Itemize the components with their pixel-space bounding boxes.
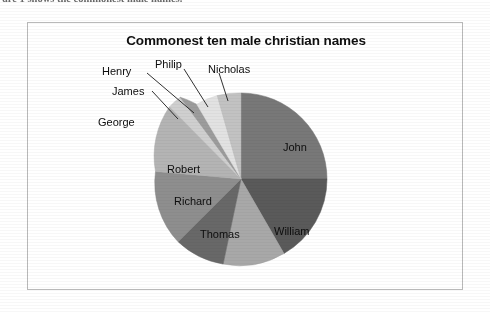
pie-chart: John William Thomas Richard Robert Georg… [28,23,464,291]
pie-label-robert: Robert [167,163,200,175]
pie-label-richard: Richard [174,195,212,207]
pie-label-james: James [112,85,144,97]
pie-slices [154,93,327,266]
pie-slice-john[interactable] [241,93,327,179]
page-caption-strip: ure 1 shows the commonest male names. [0,0,490,9]
pie-label-john: John [283,141,307,153]
pie-label-henry: Henry [102,65,131,77]
scanned-page: ure 1 shows the commonest male names. Co… [0,0,490,312]
pie-label-nicholas: Nicholas [208,63,250,75]
pie-label-george: George [98,116,135,128]
page-caption-text: ure 1 shows the commonest male names. [2,0,182,4]
pie-label-philip: Philip [155,58,182,70]
pie-label-william: William [274,225,309,237]
figure-frame: Commonest ten male christian names [27,22,463,290]
pie-label-thomas: Thomas [200,228,240,240]
